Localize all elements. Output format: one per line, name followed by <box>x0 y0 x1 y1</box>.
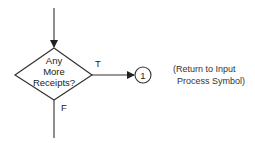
decision-text-line-1: Any <box>46 55 63 66</box>
connector-note-line-1: (Return to Input <box>173 64 236 74</box>
decision-text-line-3: Receipts? <box>33 77 75 88</box>
flowchart-canvas: Any More Receipts? T 1 (Return to Input … <box>0 0 255 143</box>
connector-note-line-2: Process Symbol) <box>177 76 245 86</box>
decision-text-line-2: More <box>43 66 65 77</box>
false-branch-label: F <box>61 102 67 113</box>
true-branch-label: T <box>95 58 101 69</box>
connector-label: 1 <box>140 70 145 81</box>
